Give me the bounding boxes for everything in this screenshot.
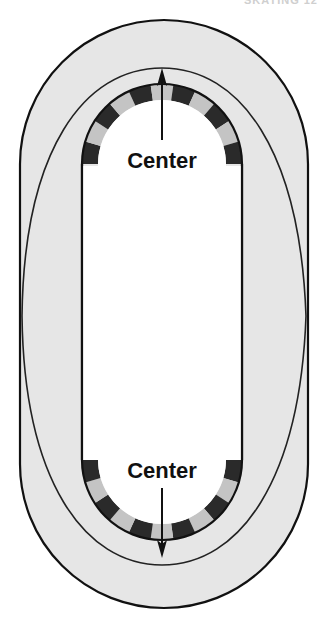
top-center-label: Center: [127, 148, 197, 173]
bottom-center-label: Center: [127, 458, 197, 483]
oval-track-diagram: Center Center: [0, 0, 324, 622]
